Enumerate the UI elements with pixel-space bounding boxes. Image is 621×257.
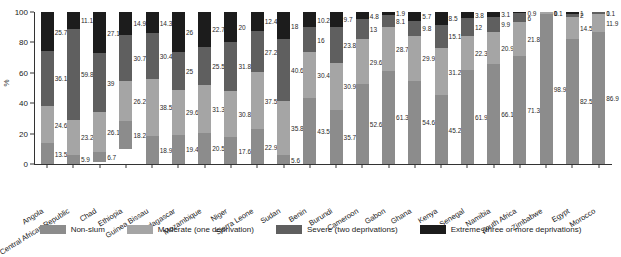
bar-segment[interactable]: 13.5 xyxy=(41,143,54,164)
bar-column[interactable]: 9.723.830.935.7 xyxy=(323,12,349,164)
bar-segment[interactable]: 5.7 xyxy=(408,12,421,21)
stacked-bar[interactable]: 0.1111.986.9 xyxy=(592,12,605,164)
bar-segment[interactable]: 18.2 xyxy=(119,121,132,149)
bar-segment[interactable]: 9.8 xyxy=(408,21,421,36)
bar-segment[interactable]: 14.5 xyxy=(566,17,579,39)
bar-column[interactable]: 262529.619.4 xyxy=(165,12,191,164)
bar-segment[interactable]: 20.9 xyxy=(487,32,500,64)
bar-segment[interactable]: 22.9 xyxy=(251,129,264,164)
bar-column[interactable]: 1840.635.85.6 xyxy=(270,12,296,164)
stacked-bar[interactable]: 10.21630.443.5 xyxy=(303,12,316,164)
bar-segment[interactable]: 35.8 xyxy=(277,101,290,155)
stacked-bar[interactable]: 1.98.128.761.3 xyxy=(382,12,395,164)
bar-segment[interactable]: 9.7 xyxy=(330,12,343,27)
stacked-bar[interactable]: 5.79.829.954.6 xyxy=(408,12,421,164)
bar-segment[interactable]: 9.9 xyxy=(487,17,500,32)
bar-segment[interactable]: 12.4 xyxy=(251,12,264,31)
stacked-bar[interactable]: 3.81222.361.9 xyxy=(461,12,474,164)
bar-column[interactable]: 0.9621.871.3 xyxy=(507,12,533,164)
bar-segment[interactable]: 4.8 xyxy=(356,12,369,19)
bar-column[interactable]: 27.13926.16.7 xyxy=(87,12,113,164)
bar-segment[interactable]: 20.5 xyxy=(198,133,211,164)
bar-segment[interactable]: 10.2 xyxy=(303,12,316,27)
bar-segment[interactable]: 25.7 xyxy=(41,12,54,51)
bar-column[interactable]: 14.930.726.218.2 xyxy=(113,12,139,164)
stacked-bar[interactable]: 12.427.237.522.9 xyxy=(251,12,264,164)
bar-segment[interactable]: 26.1 xyxy=(93,112,106,152)
bar-segment[interactable]: 6 xyxy=(513,13,526,22)
bar-column[interactable]: 3.81222.361.9 xyxy=(454,12,480,164)
bar-segment[interactable]: 43.5 xyxy=(303,98,316,164)
bar-segment[interactable]: 17.6 xyxy=(224,137,237,164)
bar-column[interactable]: 10.21630.443.5 xyxy=(297,12,323,164)
bar-column[interactable]: 12.427.237.522.9 xyxy=(244,12,270,164)
bar-column[interactable]: 8.515.131.245.2 xyxy=(428,12,454,164)
bar-segment[interactable]: 8.5 xyxy=(435,12,448,25)
bar-segment[interactable]: 52.6 xyxy=(356,84,369,164)
stacked-bar[interactable]: 11.159.823.25.9 xyxy=(67,12,80,164)
bar-segment[interactable]: 61.3 xyxy=(382,71,395,164)
bar-column[interactable]: 0.1111.986.9 xyxy=(586,12,612,164)
bar-segment[interactable]: 35.7 xyxy=(330,110,343,164)
bar-segment[interactable]: 25.5 xyxy=(198,47,211,86)
bar-segment[interactable]: 18.9 xyxy=(146,136,159,164)
bar-column[interactable]: 3.19.920.966.1 xyxy=(481,12,507,164)
bar-column[interactable]: 1.98.128.761.3 xyxy=(375,12,401,164)
bar-segment[interactable]: 11.9 xyxy=(592,14,605,32)
bar-segment[interactable]: 45.2 xyxy=(435,95,448,164)
legend-item[interactable]: Non-slum xyxy=(40,225,105,234)
bar-segment[interactable]: 15.1 xyxy=(435,25,448,48)
stacked-bar[interactable]: 0.9621.871.3 xyxy=(513,12,526,164)
bar-column[interactable]: 001.198.9 xyxy=(533,12,559,164)
bar-segment[interactable]: 54.6 xyxy=(408,81,421,164)
bar-column[interactable]: 5.79.829.954.6 xyxy=(402,12,428,164)
legend-item[interactable]: Moderate (one deprivation) xyxy=(127,225,254,234)
bar-segment[interactable]: 21.8 xyxy=(513,22,526,55)
bar-segment[interactable]: 22.7 xyxy=(198,12,211,47)
bar-column[interactable]: 11.159.823.25.9 xyxy=(60,12,86,164)
bar-segment[interactable]: 29.6 xyxy=(356,39,369,84)
bar-segment[interactable]: 82.5 xyxy=(566,39,579,164)
stacked-bar[interactable]: 22.725.531.320.5 xyxy=(198,12,211,164)
bar-segment[interactable]: 98.9 xyxy=(540,14,553,164)
bar-segment[interactable]: 27.2 xyxy=(251,31,264,72)
stacked-bar[interactable]: 14.330.438.518.9 xyxy=(146,12,159,164)
bar-segment[interactable]: 13 xyxy=(356,19,369,39)
stacked-bar[interactable]: 9.723.830.935.7 xyxy=(330,12,343,164)
stacked-bar[interactable]: 25.736.124.613.5 xyxy=(41,12,54,164)
stacked-bar[interactable]: 8.515.131.245.2 xyxy=(435,12,448,164)
bar-segment[interactable]: 29.6 xyxy=(172,90,185,135)
bar-segment[interactable]: 39 xyxy=(93,53,106,112)
bar-segment[interactable]: 30.8 xyxy=(224,91,237,138)
bar-segment[interactable]: 11.1 xyxy=(67,12,80,29)
bar-column[interactable]: 1214.582.5 xyxy=(559,12,585,164)
bar-segment[interactable]: 22.3 xyxy=(461,36,474,70)
bar-segment[interactable]: 18 xyxy=(277,12,290,39)
bar-segment[interactable]: 14.9 xyxy=(119,12,132,35)
bar-segment[interactable]: 31.8 xyxy=(224,42,237,90)
stacked-bar[interactable]: 3.19.920.966.1 xyxy=(487,12,500,164)
bar-segment[interactable]: 5.9 xyxy=(67,155,80,164)
bar-column[interactable]: 22.725.531.320.5 xyxy=(192,12,218,164)
bar-segment[interactable]: 25 xyxy=(172,52,185,90)
bar-segment[interactable]: 5.6 xyxy=(277,155,290,164)
bar-segment[interactable]: 20 xyxy=(224,12,237,42)
bar-segment[interactable]: 12 xyxy=(461,18,474,36)
bar-segment[interactable]: 28.7 xyxy=(382,27,395,71)
bar-segment[interactable]: 8.1 xyxy=(382,15,395,27)
bar-segment[interactable]: 24.6 xyxy=(41,106,54,143)
stacked-bar[interactable]: 14.930.726.218.2 xyxy=(119,12,132,164)
bar-column[interactable]: 14.330.438.518.9 xyxy=(139,12,165,164)
bar-segment[interactable]: 71.3 xyxy=(513,56,526,164)
bar-segment[interactable]: 23.8 xyxy=(330,27,343,63)
bar-segment[interactable]: 26 xyxy=(172,12,185,52)
bar-segment[interactable]: 26.2 xyxy=(119,81,132,121)
bar-segment[interactable]: 27.1 xyxy=(93,12,106,53)
stacked-bar[interactable]: 2031.830.817.6 xyxy=(224,12,237,164)
bar-segment[interactable]: 86.9 xyxy=(592,32,605,164)
bar-segment[interactable]: 16 xyxy=(303,27,316,51)
bar-segment[interactable]: 40.6 xyxy=(277,39,290,101)
bar-segment[interactable]: 30.4 xyxy=(303,52,316,98)
bar-segment[interactable]: 59.8 xyxy=(67,29,80,120)
bar-segment[interactable]: 36.1 xyxy=(41,51,54,106)
